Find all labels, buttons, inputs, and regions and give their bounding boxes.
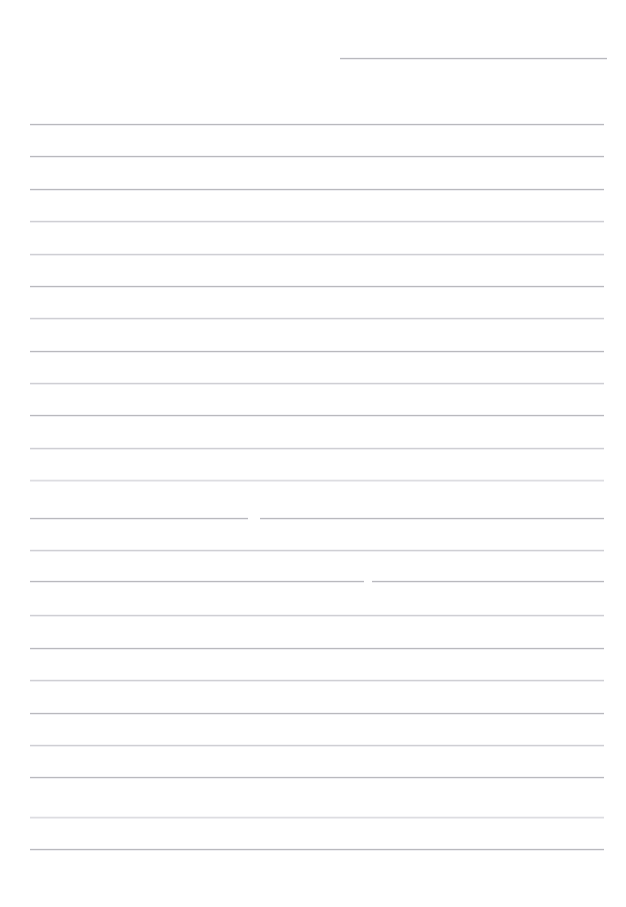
ruled-line [30,124,604,125]
ruled-line [30,156,604,157]
ruled-line [30,254,604,255]
ruled-line [30,680,604,681]
ruled-line [30,581,364,582]
ruled-line [30,318,604,319]
ruled-line [30,415,604,416]
ruled-line [30,615,604,616]
ruled-line [30,518,248,519]
ruled-line [30,817,604,818]
ruled-line [30,189,604,190]
ruled-line [30,713,604,714]
document-page [0,0,626,907]
ruled-line [260,518,604,519]
ruled-line [30,286,604,287]
ruled-line [30,550,604,551]
ruled-line [30,849,604,850]
ruled-line [30,448,604,449]
ruled-line [30,648,604,649]
ruled-line [30,480,604,481]
top-cropped-text-strip [0,0,626,7]
ruled-line [372,581,604,582]
ruled-line [30,351,604,352]
ruled-line [30,383,604,384]
ruled-line [340,58,607,59]
ruled-line [30,777,604,778]
ruled-line [30,221,604,222]
ruled-line [30,745,604,746]
